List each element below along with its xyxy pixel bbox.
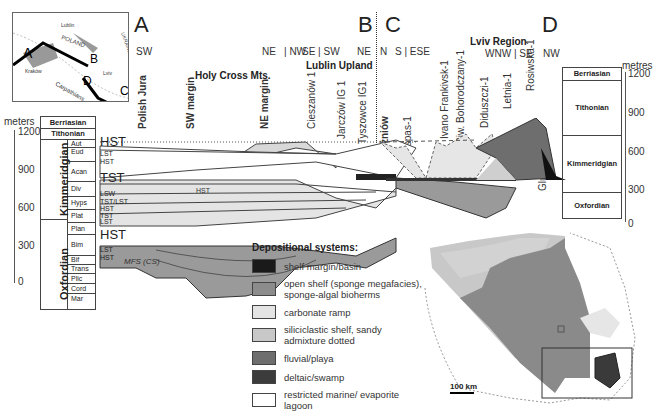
svg-text:Carpathians: Carpathians	[55, 81, 86, 101]
legend-item-restricted: restricted marine/ evaporite lagoon	[252, 389, 422, 411]
seq-hst-5: HST	[100, 254, 114, 261]
left-strat-column: Berriasian Tithonian Kimmeridgian Oxford…	[40, 116, 96, 310]
right-depth-scale: metres 1200 900 600 300 0	[622, 60, 660, 230]
legend-title: Depositional systems:	[252, 242, 422, 253]
seq-hst-2: HST	[100, 158, 114, 165]
seq-hst-4: HST	[100, 227, 126, 242]
svg-text:D: D	[83, 74, 92, 88]
section-letter-d: D	[542, 12, 558, 38]
svg-text:UKRAINE: UKRAINE	[120, 31, 128, 55]
dir-n: N	[380, 46, 387, 57]
inset-point-a: A	[23, 45, 33, 61]
legend-item-siliciclastic: siliciclastic shelf, sandy admixture dot…	[252, 324, 422, 346]
dir-nw-d: NW	[543, 48, 560, 59]
svg-text:Lublin: Lublin	[61, 22, 75, 28]
left-depth-scale: meters 1200 900 600 300 0	[4, 116, 36, 286]
seq-tst-lst: TST/LST	[100, 198, 128, 205]
dir-ne-2: NE	[357, 46, 371, 57]
svg-text:Kraków: Kraków	[25, 68, 42, 74]
inset-map-graphic: A B C D Lublin POLAND UKRAINE Kraków Lvi…	[13, 13, 128, 101]
locality-letnia: Letnia-1	[502, 73, 513, 109]
seq-hst-3: HST	[100, 205, 114, 212]
dir-s-ese: S | ESE	[395, 46, 430, 57]
locality-rosiwska: Rosiwska-1	[525, 39, 536, 91]
inner-hst-label: HST	[196, 187, 210, 194]
legend-item-open-shelf: open shelf (sponge megafacies), sponge-a…	[252, 278, 422, 300]
dir-se-sw: SE | SW	[302, 46, 340, 57]
seq-lst-1: LST	[100, 150, 113, 157]
section-letter-a: A	[134, 12, 149, 38]
map-scale-bar: 100 km	[450, 382, 477, 394]
legend: Depositional systems: shelf margin/basin…	[252, 242, 422, 411]
svg-text:B: B	[90, 52, 98, 66]
section-letter-c: C	[385, 12, 401, 38]
legend-item-carbonate-ramp: carbonate ramp	[252, 305, 422, 319]
svg-text:C: C	[120, 84, 128, 98]
paleogeographic-map	[420, 228, 650, 408]
legend-item-shelf-margin: shelf margin/basin	[252, 259, 422, 273]
legend-item-fluvial: fluvial/playa	[252, 351, 422, 365]
seq-hst-top: HST	[100, 134, 126, 149]
svg-text:POLAND: POLAND	[61, 34, 87, 48]
right-strat-column: Berriasian Tithonian Kimmeridgian Oxford…	[562, 67, 622, 219]
seq-tst: TST	[100, 170, 125, 185]
mfs-label: MFS (CS)	[124, 257, 160, 266]
region-lublin: Lublin Upland	[306, 60, 373, 71]
region-lviv: Lviv Region	[470, 36, 527, 47]
dir-sw: SW	[136, 46, 152, 57]
section-letter-b: B	[358, 12, 373, 38]
inset-map: A B C D Lublin POLAND UKRAINE Kraków Lvi…	[12, 12, 129, 102]
legend-item-deltaic: deltaic/swamp	[252, 370, 422, 384]
dir-ne-1: NE	[262, 46, 276, 57]
seq-lst-2: LST	[100, 218, 113, 225]
svg-text:Lviv: Lviv	[103, 70, 112, 76]
seq-lsw: LSW	[100, 190, 115, 197]
seq-lst-3: LST	[100, 246, 113, 253]
